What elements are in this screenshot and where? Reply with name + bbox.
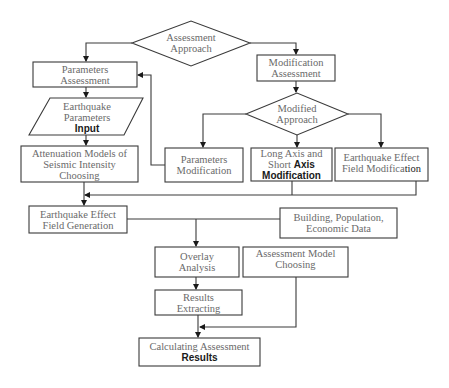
label-line: Assessment [166,32,216,43]
label-line: Analysis [179,262,216,273]
label-line-mixed: Field Modifica tion [342,163,421,174]
label-line: Modification [177,165,232,176]
earthquake-effect-field-modification-label: Earthquake Effect Field Modifica tion [335,148,428,178]
parameters-modification-label: Parameters Modification [165,148,243,182]
earthquake-effect-field-generation-label: Earthquake Effect Field Generation [29,206,127,233]
assessment-model-choosing-label: Assessment Model Choosing [243,247,348,271]
label-line-emphasis: Axis [294,159,315,170]
label-line: Parameters [181,154,228,165]
long-axis-modification-label: Long Axis and Short Axis Modification [251,148,332,181]
results-extracting-label: Results Extracting [155,290,242,315]
label-line: Assessment [60,75,110,86]
label-line: Results [183,292,214,303]
edge-modified-approach-to-field-modification [348,114,381,147]
label-line-emphasis: tion [405,163,421,174]
label-line: Parameters [62,64,109,75]
label-line: Assessment [271,68,321,79]
label-line: Attenuation Models of [32,148,127,159]
label-line: Earthquake [63,101,111,112]
assessment-approach-label: Assessment Approach [150,30,232,56]
label-line: Seismic Intensity [43,159,116,170]
earthquake-parameters-input-label: Earthquake Parameters Input [40,99,134,135]
label-line-mixed: Short Axis [268,159,315,170]
modification-assessment-label: Modification Assessment [257,55,335,81]
label-line-emphasis: Input [75,123,99,134]
label-line: Earthquake Effect [40,209,116,220]
attenuation-models-label: Attenuation Models of Seismic Intensity … [21,146,138,182]
overlay-analysis-label: Overlay Analysis [155,247,239,277]
label-line: Parameters [64,112,111,123]
label-line: Field Generation [43,220,114,231]
label-line-emphasis: Modification [262,170,321,181]
label-line: Modified [277,103,316,114]
parameters-assessment-label: Parameters Assessment [33,62,137,87]
label-line: Choosing [59,170,99,181]
building-population-economic-label: Building, Population, Economic Data [280,208,397,238]
label-line: Calculating Assessment [149,341,249,352]
label-line-plain: Field Modifica [342,163,405,174]
modified-approach-label: Modified Approach [266,101,328,127]
label-line-emphasis: Results [181,352,217,363]
label-line: Building, Population, [293,212,383,223]
label-line: Choosing [275,259,315,270]
label-line: Approach [276,114,317,125]
label-line: Assessment Model [256,248,336,259]
label-line: Economic Data [306,223,371,234]
label-line: Approach [170,43,211,54]
calculating-assessment-results-label: Calculating Assessment Results [139,338,260,366]
label-line-plain: Short [268,159,291,170]
label-line: Earthquake Effect [344,152,420,163]
label-line: Extracting [177,303,221,314]
edge-modified-approach-to-parameters-modification [203,114,246,147]
edge-approach-to-parameters-assessment [86,43,132,61]
label-line: Long Axis and [261,148,323,159]
edge-parameters-modification-to-parameters-assessment [138,75,165,165]
flowchart: Assessment Approach Parameters Assessmen… [0,0,449,388]
flowchart-shapes [0,0,449,388]
edge-modifications-merge [292,181,416,195]
label-line: Modification [269,57,324,68]
label-line: Overlay [180,251,214,262]
edge-approach-to-modification-assessment [250,43,296,54]
